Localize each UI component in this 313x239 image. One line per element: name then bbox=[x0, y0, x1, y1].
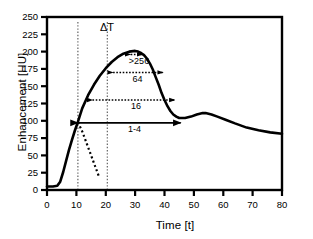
y-tick-label: 250 bbox=[22, 11, 38, 22]
chart-plot-area: 0 25 50 75 100 125 150 175 200 225 250 bbox=[0, 0, 313, 239]
x-tick-label: 40 bbox=[159, 199, 170, 210]
y-tick-label: 50 bbox=[27, 150, 38, 161]
chart-figure: 0 25 50 75 100 125 150 175 200 225 250 bbox=[0, 0, 313, 239]
y-tick-label: 75 bbox=[27, 132, 38, 143]
x-tick-label: 30 bbox=[130, 199, 141, 210]
annotation-slice-64: 64 bbox=[132, 74, 142, 84]
annotation-slice-256: >256 bbox=[129, 56, 149, 66]
x-tick-label: 0 bbox=[44, 199, 49, 210]
x-tick-label: 20 bbox=[101, 199, 112, 210]
y-axis-title: Enhancement [HU] bbox=[16, 27, 28, 177]
plot-frame bbox=[47, 17, 282, 190]
x-axis-tick-labels: 0 10 20 30 40 50 60 70 80 bbox=[44, 199, 287, 210]
y-tick-label: 25 bbox=[27, 167, 38, 178]
annotation-slice-1-4: 1-4 bbox=[128, 124, 141, 134]
y-tick-label: 0 bbox=[33, 184, 38, 195]
x-tick-label: 80 bbox=[277, 199, 288, 210]
x-tick-label: 50 bbox=[189, 199, 200, 210]
x-axis-title: Time [t] bbox=[120, 219, 230, 231]
annotation-delta-t: ΔT bbox=[100, 21, 114, 33]
x-tick-label: 10 bbox=[71, 199, 82, 210]
x-tick-label: 70 bbox=[247, 199, 258, 210]
annotation-slice-16: 16 bbox=[131, 101, 141, 111]
x-tick-label: 60 bbox=[218, 199, 229, 210]
